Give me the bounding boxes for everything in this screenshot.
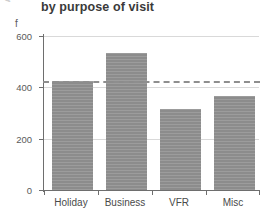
bar-holiday[interactable] bbox=[52, 81, 93, 190]
x-tick-2 bbox=[152, 190, 153, 195]
y-tick-label-0: 0 bbox=[27, 186, 32, 195]
mean-reference-line bbox=[43, 81, 260, 83]
x-label-business: Business bbox=[98, 197, 152, 208]
x-label-holiday: Holiday bbox=[44, 197, 98, 208]
bar-misc[interactable] bbox=[214, 96, 255, 190]
bar-chart: s by purpose of visit f 600 400 200 0 bbox=[0, 0, 265, 221]
bar-business[interactable] bbox=[106, 53, 147, 190]
x-tick-0 bbox=[44, 190, 45, 195]
plot-area: 600 400 200 0 bbox=[44, 36, 259, 190]
y-tick-label-600: 600 bbox=[16, 32, 32, 41]
x-tick-1 bbox=[98, 190, 99, 195]
y-tick-label-400: 400 bbox=[16, 83, 32, 92]
bar-series bbox=[44, 36, 259, 190]
chart-title: by purpose of visit bbox=[41, 0, 154, 15]
x-label-vfr: VFR bbox=[152, 197, 206, 208]
y-axis-label: f bbox=[15, 19, 18, 29]
x-tick-4 bbox=[259, 190, 260, 195]
bar-vfr[interactable] bbox=[160, 109, 201, 190]
x-label-misc: Misc bbox=[206, 197, 260, 208]
x-tick-3 bbox=[206, 190, 207, 195]
y-tick-label-200: 200 bbox=[16, 135, 32, 144]
